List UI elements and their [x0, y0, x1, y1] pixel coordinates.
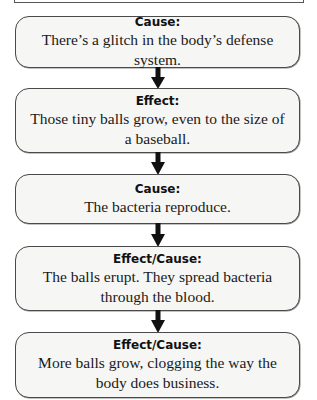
step-text: Those tiny balls grow, even to the size …	[30, 109, 285, 149]
down-arrow-icon	[150, 310, 166, 333]
down-arrow-icon	[150, 152, 166, 175]
step-label: Effect/Cause:	[113, 337, 202, 353]
step-box-1: Cause: There’s a glitch in the body’s de…	[15, 16, 300, 68]
step-text: There’s a glitch in the body’s defense s…	[30, 30, 285, 70]
down-arrow-icon	[150, 223, 166, 247]
step-box-2: Effect: Those tiny balls grow, even to t…	[15, 88, 300, 153]
step-box-4: Effect/Cause: The balls erupt. They spre…	[15, 246, 300, 311]
step-box-5: Effect/Cause: More balls grow, clogging …	[15, 332, 300, 398]
step-text: More balls grow, clogging the way the bo…	[30, 353, 285, 393]
down-arrow-icon	[150, 67, 166, 89]
step-label: Cause:	[135, 181, 181, 197]
step-box-3: Cause: The bacteria reproduce.	[15, 174, 300, 224]
step-label: Cause:	[135, 14, 181, 30]
step-label: Effect:	[136, 93, 180, 109]
step-text: The balls erupt. They spread bacteria th…	[30, 267, 285, 307]
step-label: Effect/Cause:	[113, 251, 202, 267]
previous-box-edge	[14, 0, 304, 3]
step-text: The bacteria reproduce.	[84, 197, 231, 217]
